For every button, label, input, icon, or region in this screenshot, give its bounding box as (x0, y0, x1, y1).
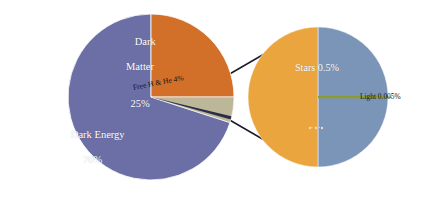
detail-pie (248, 27, 392, 167)
chart-canvas (0, 0, 427, 197)
pie-chart-figure: Dark Energy 70% Dark Matter 25% Free H &… (0, 0, 427, 197)
main-pie (68, 14, 234, 180)
slice-dark-matter[interactable] (151, 14, 234, 97)
slice-other[interactable] (248, 27, 318, 167)
